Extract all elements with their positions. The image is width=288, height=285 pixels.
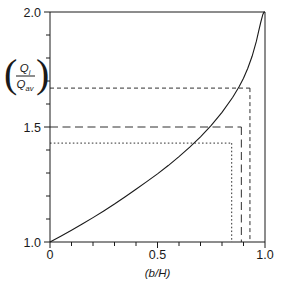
y-tick-label-0: 1.0 bbox=[24, 236, 41, 250]
reference-line-upper bbox=[50, 88, 250, 242]
y-tick-label-1: 1.5 bbox=[24, 121, 41, 135]
y-axis-title-numerator: Qi bbox=[20, 62, 31, 77]
y-tick-label-2: 2.0 bbox=[24, 6, 41, 20]
x-tick-label-2: 1.0 bbox=[256, 248, 273, 262]
y-axis-title-open-paren: ( bbox=[4, 51, 17, 96]
x-tick-label-0: 0 bbox=[47, 248, 54, 262]
y-axis-title-close-paren: ) bbox=[36, 51, 49, 96]
y-axis-major-ticks bbox=[44, 12, 50, 242]
y-axis-title-denominator: Qav bbox=[17, 78, 35, 93]
x-axis-title: (b/H) bbox=[145, 267, 171, 279]
reference-line-middle bbox=[50, 127, 241, 242]
chart-plot-svg: 2.0 1.5 1.0 0 0.5 1.0 (b/H) ( Qi Qav ) bbox=[0, 0, 288, 285]
x-tick-label-1: 0.5 bbox=[149, 248, 166, 262]
chart-figure: 2.0 1.5 1.0 0 0.5 1.0 (b/H) ( Qi Qav ) bbox=[0, 0, 288, 285]
y-axis-title: ( Qi Qav ) bbox=[4, 51, 49, 96]
